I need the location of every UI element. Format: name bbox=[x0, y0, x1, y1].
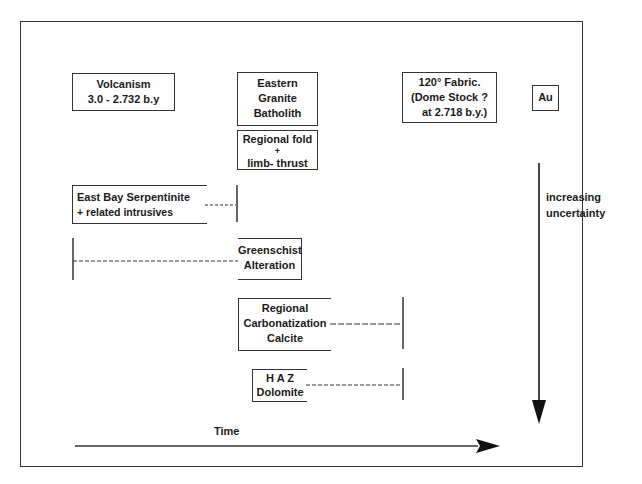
greenschist-box: Greenschist Alteration bbox=[238, 238, 302, 280]
uncertainty-line-1: increasing bbox=[546, 189, 605, 205]
granite-line-3: Batholith bbox=[238, 106, 317, 121]
fabric-line-3: at 2.718 b.y.) bbox=[403, 105, 496, 120]
haz-dolomite-box: H A Z Dolomite bbox=[252, 369, 307, 402]
fold-line-1: Regional fold bbox=[238, 133, 317, 145]
fabric-line-1: 120° Fabric. bbox=[403, 75, 496, 90]
uncertainty-label: increasing uncertainty bbox=[546, 189, 605, 221]
fold-line-2: + bbox=[238, 145, 317, 157]
volcanism-age: 3.0 - 2.732 b.y bbox=[73, 92, 174, 107]
granite-line-1: Eastern bbox=[238, 76, 317, 91]
carbonatization-box: Regional Carbonatization Calcite bbox=[238, 298, 331, 351]
carbonatization-line-2: Carbonatization bbox=[239, 316, 331, 331]
greenschist-line-1: Greenschist bbox=[238, 243, 301, 258]
serpentinite-line-1: East Bay Serpentinite bbox=[77, 190, 207, 205]
greenschist-line-2: Alteration bbox=[238, 258, 301, 273]
haz-line-2: Dolomite bbox=[253, 385, 307, 399]
fabric-dome-stock-box: 120° Fabric. (Dome Stock ? at 2.718 b.y.… bbox=[402, 72, 497, 123]
carbonatization-line-1: Regional bbox=[239, 301, 331, 316]
serpentinite-box: East Bay Serpentinite + related intrusiv… bbox=[72, 185, 207, 224]
time-label: Time bbox=[214, 423, 239, 439]
carbonatization-line-3: Calcite bbox=[239, 331, 331, 346]
au-label: Au bbox=[533, 86, 558, 109]
volcanism-box: Volcanism 3.0 - 2.732 b.y bbox=[72, 73, 175, 111]
granite-line-2: Granite bbox=[238, 91, 317, 106]
regional-fold-box: Regional fold + limb- thrust bbox=[237, 130, 318, 170]
au-box: Au bbox=[532, 85, 559, 111]
granite-batholith-box: Eastern Granite Batholith bbox=[237, 72, 318, 126]
fabric-line-2: (Dome Stock ? bbox=[403, 90, 496, 105]
uncertainty-line-2: uncertainty bbox=[546, 205, 605, 221]
fold-line-3: limb- thrust bbox=[238, 157, 317, 169]
volcanism-title: Volcanism bbox=[73, 77, 174, 92]
serpentinite-line-2: + related intrusives bbox=[77, 205, 207, 220]
haz-line-1: H A Z bbox=[253, 371, 307, 385]
